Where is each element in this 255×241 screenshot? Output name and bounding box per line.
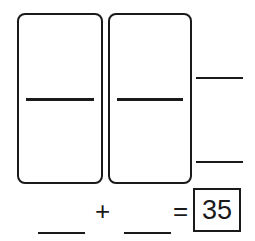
equals-sign: = (173, 198, 188, 224)
plus-sign: + (95, 198, 110, 224)
right-blank-top[interactable] (196, 77, 243, 79)
sum-value: 35 (202, 195, 232, 226)
domino-2 (108, 13, 192, 184)
addend-1-blank[interactable] (38, 232, 85, 234)
domino-1-divider (26, 98, 94, 101)
addend-2-blank[interactable] (124, 232, 171, 234)
right-blank-bottom[interactable] (196, 161, 243, 163)
domino-2-divider (117, 98, 183, 101)
sum-answer-box: 35 (193, 188, 241, 232)
domino-1 (17, 13, 103, 184)
